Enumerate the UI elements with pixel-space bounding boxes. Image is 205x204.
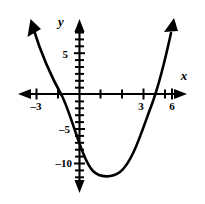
y-tick-label-neg5: –5 xyxy=(58,123,71,135)
graph-figure: y x –3 3 6 5 –5 –10 xyxy=(0,0,205,204)
parabola-curve xyxy=(34,29,172,176)
y-axis-down-arrow-icon xyxy=(75,180,85,193)
parabola-curve-group xyxy=(28,18,179,176)
y-axis-up-arrow-icon xyxy=(75,19,85,32)
x-axis-left-arrow-icon xyxy=(18,89,31,99)
x-axis-group xyxy=(18,89,187,100)
x-axis-right-arrow-icon xyxy=(174,89,187,99)
y-tick-label-5: 5 xyxy=(63,48,69,60)
y-axis-group xyxy=(74,19,85,193)
y-axis-label: y xyxy=(56,14,64,29)
y-tick-label-neg10: –10 xyxy=(55,157,73,169)
coordinate-plane-svg: y x –3 3 6 5 –5 –10 xyxy=(0,0,205,204)
x-tick-label-3: 3 xyxy=(138,100,144,112)
parabola-right-arrow-icon xyxy=(164,18,178,32)
x-tick-label-neg3: –3 xyxy=(30,100,43,112)
x-axis-label: x xyxy=(180,68,188,83)
x-tick-label-6: 6 xyxy=(169,100,175,112)
